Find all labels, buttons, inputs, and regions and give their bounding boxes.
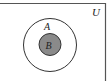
universal-set-label: U — [92, 6, 101, 18]
set-b-label: B — [46, 40, 52, 51]
set-a-label: A — [43, 21, 51, 32]
venn-diagram: U A B — [0, 0, 112, 81]
